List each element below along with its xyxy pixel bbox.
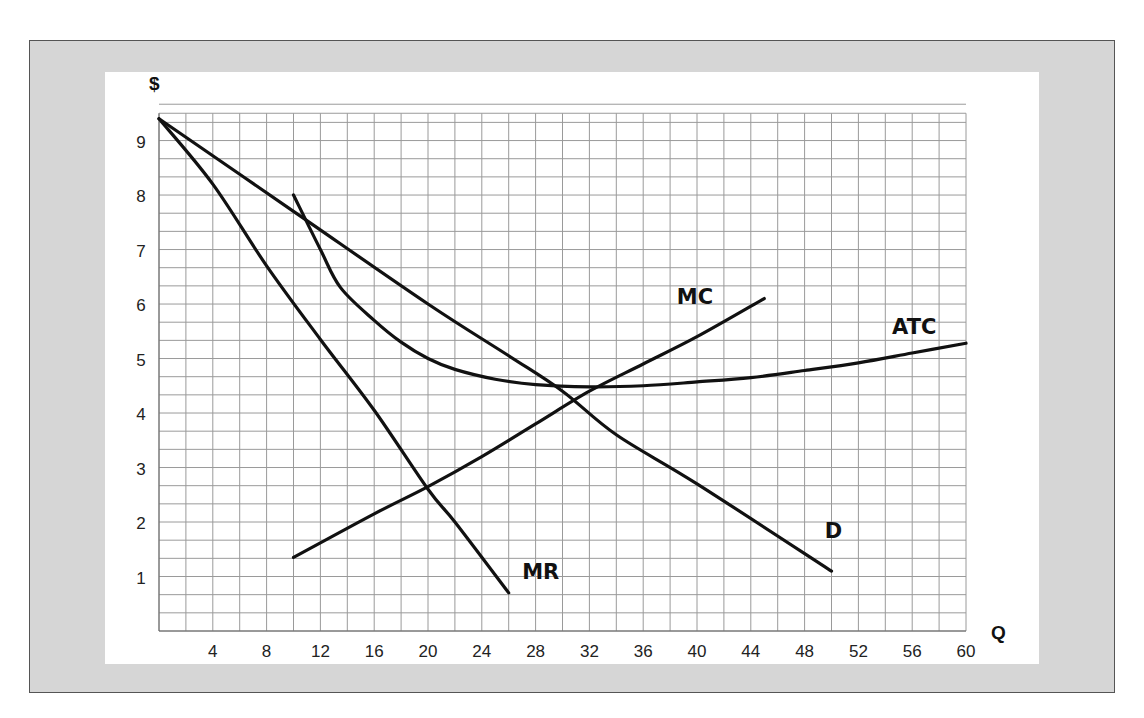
- y-tick-label: 9: [136, 133, 145, 152]
- x-tick-label: 28: [526, 642, 545, 661]
- curve-label-mc: MC: [677, 285, 713, 309]
- y-tick-label: 7: [136, 242, 145, 261]
- y-tick-label: 1: [136, 569, 145, 588]
- curve-labels: DMRMCATC: [522, 285, 936, 584]
- x-tick-label: 36: [634, 642, 653, 661]
- grid: [159, 104, 966, 631]
- x-tick-label: 24: [472, 642, 491, 661]
- y-axis-title: $: [149, 73, 160, 94]
- y-tick-label: 4: [136, 405, 145, 424]
- y-tick-label: 8: [136, 187, 145, 206]
- x-tick-label: 32: [580, 642, 599, 661]
- y-tick-label: 3: [136, 460, 145, 479]
- curve-mc: [294, 299, 765, 558]
- x-axis-ticks: 4812162024283236404448525660: [208, 642, 975, 661]
- x-tick-label: 4: [208, 642, 217, 661]
- x-tick-label: 56: [903, 642, 922, 661]
- x-tick-label: 20: [419, 642, 438, 661]
- x-tick-label: 8: [262, 642, 271, 661]
- y-tick-label: 5: [136, 351, 145, 370]
- y-axis-ticks: 123456789: [136, 133, 145, 588]
- curve-d: [159, 119, 832, 571]
- curve-label-atc: ATC: [892, 315, 936, 339]
- x-tick-label: 52: [849, 642, 868, 661]
- x-tick-label: 40: [688, 642, 707, 661]
- x-tick-label: 60: [957, 642, 976, 661]
- curve-label-d: D: [825, 519, 842, 543]
- x-tick-label: 12: [311, 642, 330, 661]
- x-tick-label: 48: [795, 642, 814, 661]
- x-axis-title: Q: [991, 622, 1006, 643]
- x-tick-label: 16: [365, 642, 384, 661]
- x-tick-label: 44: [741, 642, 760, 661]
- y-tick-label: 2: [136, 514, 145, 533]
- curve-label-mr: MR: [522, 560, 559, 584]
- y-tick-label: 6: [136, 296, 145, 315]
- chart-plot: 123456789 4812162024283236404448525660 $…: [0, 0, 1144, 718]
